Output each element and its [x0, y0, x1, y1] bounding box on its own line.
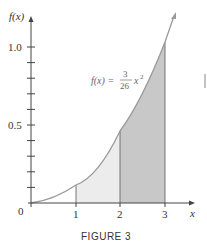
x-ticks: [76, 203, 165, 207]
x-tick-label-2: 2: [117, 208, 123, 220]
svg-text:26: 26: [120, 81, 130, 91]
svg-text:2: 2: [140, 73, 144, 81]
svg-text:x: x: [133, 75, 139, 86]
x-axis-label: x: [189, 207, 195, 219]
svg-text:3: 3: [123, 69, 128, 79]
x-tick-label-3: 3: [162, 208, 168, 220]
function-label: f(x) = 3 26 x 2: [91, 69, 144, 91]
y-axis-label: f(x): [9, 10, 25, 23]
x-axis-arrow-icon: [189, 201, 195, 206]
origin-label: 0: [18, 205, 24, 217]
y-axis-arrow-icon: [29, 16, 34, 22]
figure-canvas: f(x) 1.0 0.5 0 1 2 3 x f(x) = 3 26 x 2 F…: [0, 0, 207, 249]
svg-text:f(x) =: f(x) =: [91, 75, 114, 87]
y-tick-label-1: 1.0: [8, 41, 22, 53]
y-tick-label-05: 0.5: [8, 119, 22, 131]
figure-caption: FIGURE 3: [81, 231, 131, 242]
curve-arrowhead-icon: [171, 12, 176, 19]
x-tick-label-1: 1: [73, 208, 79, 220]
shaded-region-2-3: [120, 42, 165, 203]
